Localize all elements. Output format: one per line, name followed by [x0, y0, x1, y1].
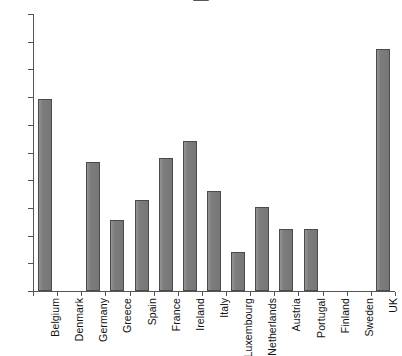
x-axis-label-italy: Italy	[219, 298, 230, 318]
bar	[255, 207, 269, 291]
x-tick-mark	[57, 292, 58, 296]
bar	[376, 49, 390, 291]
cropped-title-remnant	[193, 0, 209, 1]
x-tick-mark	[105, 292, 106, 296]
x-tick-mark	[347, 292, 348, 296]
x-tick-mark	[250, 292, 251, 296]
bar	[279, 229, 293, 291]
x-tick-mark	[130, 292, 131, 296]
x-axis-label-sweden: Sweden	[364, 298, 375, 337]
x-axis-label-netherlands: Netherlands	[267, 298, 278, 356]
bar	[110, 220, 124, 291]
bar	[135, 200, 149, 291]
x-tick-mark	[371, 292, 372, 296]
x-axis-label-denmark: Denmark	[74, 298, 85, 341]
x-axis-label-ireland: Ireland	[195, 298, 206, 331]
bar-chart: 02468101214161820 BelgiumDenmarkGermanyG…	[0, 0, 402, 356]
bars-container	[33, 14, 395, 291]
x-axis-label-france: France	[171, 298, 182, 331]
bar	[183, 141, 197, 291]
x-tick-mark	[33, 292, 34, 296]
x-axis-label-germany: Germany	[98, 298, 109, 342]
x-axis-label-spain: Spain	[147, 298, 158, 325]
x-tick-mark	[274, 292, 275, 296]
x-tick-mark	[323, 292, 324, 296]
x-tick-mark	[202, 292, 203, 296]
x-axis-label-finland: Finland	[340, 298, 351, 333]
x-tick-mark	[395, 292, 396, 296]
bar	[231, 252, 245, 291]
x-axis-label-austria: Austria	[291, 298, 302, 331]
x-axis-label-portugal: Portugal	[316, 298, 327, 338]
x-tick-mark	[81, 292, 82, 296]
bar	[159, 158, 173, 291]
x-tick-mark	[226, 292, 227, 296]
x-tick-mark	[298, 292, 299, 296]
bar	[304, 229, 318, 291]
x-axis-label-belgium: Belgium	[50, 298, 61, 337]
x-axis-line	[33, 291, 395, 292]
bar	[38, 99, 52, 291]
x-axis-label-greece: Greece	[122, 298, 133, 333]
x-tick-mark	[154, 292, 155, 296]
x-axis-label-uk: UK	[388, 298, 399, 313]
x-tick-mark	[178, 292, 179, 296]
bar	[207, 191, 221, 291]
bar	[86, 162, 100, 291]
x-axis-label-luxembourg: Luxembourg	[243, 298, 254, 356]
